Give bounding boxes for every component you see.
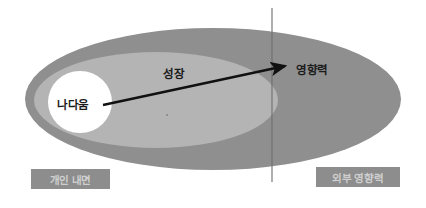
label-authenticity: 나다움 xyxy=(57,96,89,112)
diagram-canvas: 나다움 성장 영향력 개인 내면 외부 영향력 xyxy=(0,0,426,208)
label-influence: 영향력 xyxy=(296,61,328,77)
decorative-speck xyxy=(166,114,168,116)
legend-personal-inner: 개인 내면 xyxy=(31,169,110,189)
label-growth: 성장 xyxy=(163,65,184,81)
legend-external-influence: 외부 영향력 xyxy=(316,167,400,187)
